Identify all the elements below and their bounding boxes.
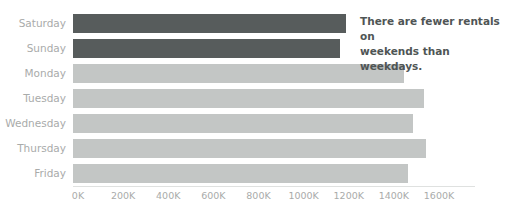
annotation-line-2: weekends than weekdays.: [360, 44, 512, 74]
bar-monday[interactable]: [73, 64, 404, 83]
bar-chart: SaturdaySundayMondayTuesdayWednesdayThur…: [0, 0, 519, 221]
bar-wednesday[interactable]: [73, 114, 413, 133]
chart-annotation: There are fewer rentals on weekends than…: [360, 14, 512, 74]
category-label-tuesday: Tuesday: [0, 93, 73, 104]
bar-saturday[interactable]: [73, 14, 346, 33]
annotation-line-1: There are fewer rentals on: [360, 14, 512, 44]
bar-row: Friday: [0, 161, 519, 186]
x-tick-400K: 400K: [156, 191, 180, 201]
bar-track: [73, 136, 519, 161]
bar-track: [73, 111, 519, 136]
x-tick-800K: 800K: [246, 191, 270, 201]
x-tick-1000K: 1000K: [288, 191, 318, 201]
category-label-friday: Friday: [0, 168, 73, 179]
bar-row: Wednesday: [0, 111, 519, 136]
bar-track: [73, 161, 519, 186]
bar-sunday[interactable]: [73, 39, 340, 58]
bar-row: Thursday: [0, 136, 519, 161]
category-label-thursday: Thursday: [0, 143, 73, 154]
x-tick-1400K: 1400K: [379, 191, 409, 201]
bar-thursday[interactable]: [73, 139, 426, 158]
bar-track: [73, 86, 519, 111]
x-tick-1600K: 1600K: [424, 191, 454, 201]
x-axis: 0K200K400K600K800K1000K1200K1400K1600K: [0, 186, 519, 206]
x-tick-1200K: 1200K: [334, 191, 364, 201]
bar-row: Tuesday: [0, 86, 519, 111]
x-axis-line: [73, 186, 475, 187]
x-tick-600K: 600K: [201, 191, 225, 201]
category-label-wednesday: Wednesday: [0, 118, 73, 129]
bar-friday[interactable]: [73, 164, 408, 183]
category-label-saturday: Saturday: [0, 18, 73, 29]
category-label-sunday: Sunday: [0, 43, 73, 54]
bar-tuesday[interactable]: [73, 89, 424, 108]
x-tick-200K: 200K: [111, 191, 135, 201]
category-label-monday: Monday: [0, 68, 73, 79]
x-tick-0K: 0K: [72, 191, 84, 201]
